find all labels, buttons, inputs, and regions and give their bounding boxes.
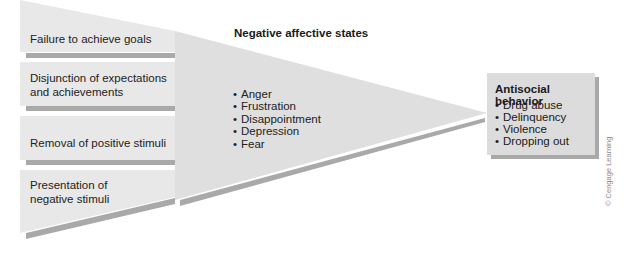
source-label-4-line2: negative stimuli <box>30 192 109 206</box>
affective-state-item: Anger <box>233 88 321 100</box>
affective-state-item: Frustration <box>233 100 321 112</box>
copyright-credit: © Cengage Learning <box>604 137 613 206</box>
source-label-3: Removal of positive stimuli <box>30 136 166 150</box>
source-label-2-line1: Disjunction of expectations <box>30 71 167 85</box>
antisocial-behavior-item: Violence <box>495 123 569 135</box>
antisocial-behavior-item: Drug abuse <box>495 99 569 111</box>
source-label-4: Presentation of negative stimuli <box>30 178 109 206</box>
separator-shadow <box>26 53 175 58</box>
source-label-2-line2: and achievements <box>30 85 167 99</box>
affective-states-title: Negative affective states <box>234 27 368 39</box>
source-label-3-line1: Removal of positive stimuli <box>30 136 166 150</box>
affective-states-triangle <box>175 31 487 200</box>
affective-state-item: Fear <box>233 138 321 150</box>
source-label-2: Disjunction of expectations and achievem… <box>30 71 167 99</box>
source-label-1-line1: Failure to achieve goals <box>30 32 151 46</box>
antisocial-behavior-list: Drug abuse Delinquency Violence Dropping… <box>495 99 569 147</box>
antisocial-behavior-item: Delinquency <box>495 111 569 123</box>
separator-shadow <box>26 160 175 165</box>
separator-shadow <box>26 106 175 111</box>
affective-state-item: Disappointment <box>233 113 321 125</box>
antisocial-behavior-box: Antisocial behavior Drug abuse Delinquen… <box>487 73 595 155</box>
source-label-4-line1: Presentation of <box>30 178 109 192</box>
source-label-1: Failure to achieve goals <box>30 32 151 46</box>
affective-state-item: Depression <box>233 125 321 137</box>
antisocial-behavior-item: Dropping out <box>495 135 569 147</box>
affective-states-list: Anger Frustration Disappointment Depress… <box>233 88 321 150</box>
